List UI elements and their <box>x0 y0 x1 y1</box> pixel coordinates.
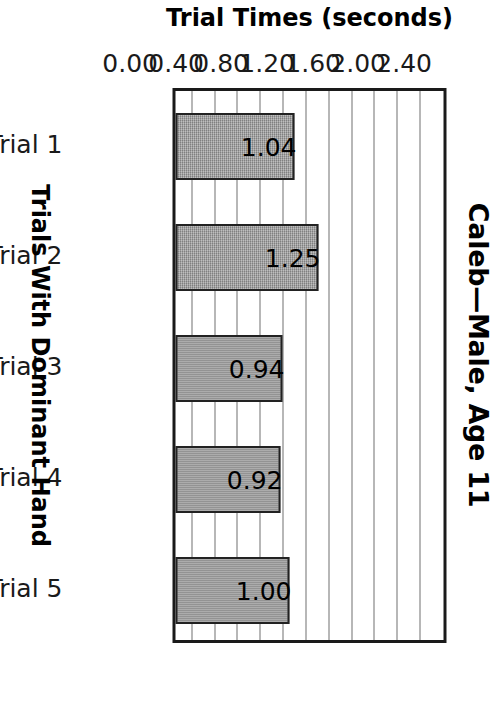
bar-value-label: 1.25 <box>264 243 320 272</box>
bar-value-label: 1.00 <box>236 576 292 605</box>
bar-chart: Caleb—Male, Age 11 Trial Times (seconds)… <box>0 0 499 710</box>
chart-title: Caleb—Male, Age 11 <box>462 0 493 710</box>
bar-value-label: 1.04 <box>240 132 296 161</box>
y-axis-tick-labels: 0.000.400.801.201.602.002.40 <box>172 0 446 84</box>
rotated-chart-stage: Caleb—Male, Age 11 Trial Times (seconds)… <box>0 0 499 710</box>
chart-screenshot: Caleb—Male, Age 11 Trial Times (seconds)… <box>0 0 499 710</box>
bar-series: 1.041.250.940.921.00 <box>175 91 443 640</box>
bar-value-label: 0.92 <box>226 465 282 494</box>
plot-area: 1.041.250.940.921.00 <box>172 88 446 643</box>
x-axis-title: Trials With Dominant Hand <box>25 88 53 643</box>
bar-value-label: 0.94 <box>229 354 285 383</box>
x-axis-tick-labels: Trial 1Trial 2Trial 3Trial 4Trial 5 <box>56 88 166 643</box>
y-axis-tick-label: 2.40 <box>376 49 432 78</box>
